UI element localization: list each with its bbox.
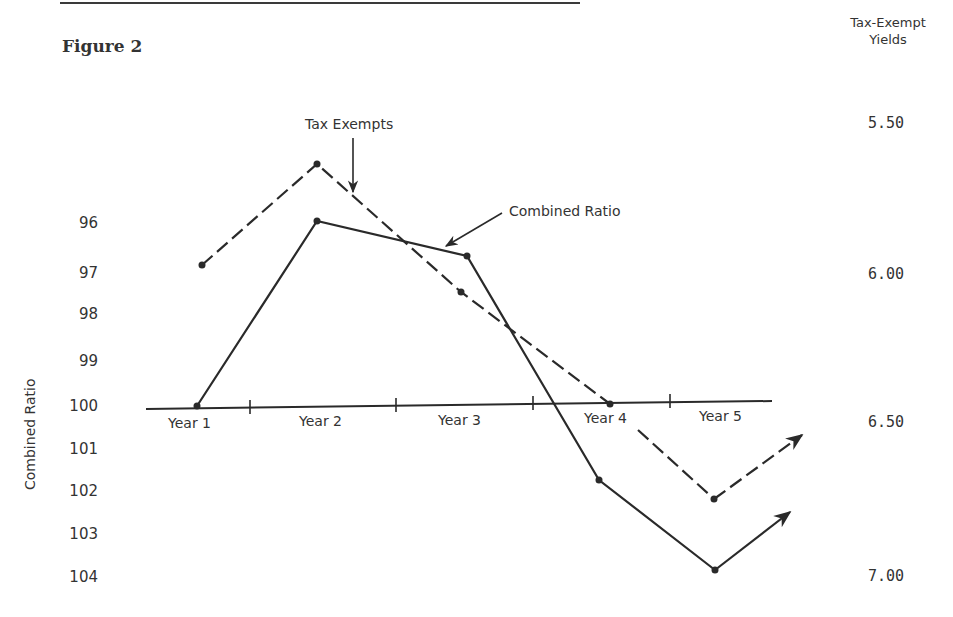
chart-canvas — [0, 0, 953, 617]
combined-ratio-arrow-icon — [446, 213, 502, 246]
series-tax-exempts — [199, 161, 803, 503]
combined-ratio-annotation: Combined Ratio — [509, 203, 621, 219]
x-label: Year 3 — [438, 412, 481, 428]
x-label: Year 2 — [299, 413, 342, 429]
x-axis — [146, 394, 772, 414]
x-label: Year 4 — [584, 410, 627, 426]
x-label: Year 5 — [699, 408, 742, 424]
annotation-arrows — [353, 138, 502, 246]
x-label: Year 1 — [168, 415, 211, 431]
series-combined-ratio — [194, 218, 791, 574]
tax-exempts-annotation: Tax Exempts — [305, 116, 393, 132]
